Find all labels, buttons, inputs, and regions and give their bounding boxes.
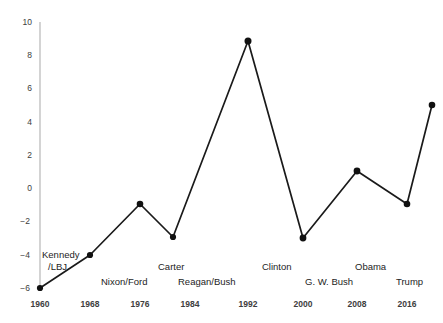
data-point-1992[interactable] xyxy=(245,38,252,45)
annotation-clinton: Clinton xyxy=(262,261,292,272)
annotation-kennedy-lbj-line1: Kennedy xyxy=(42,249,80,260)
xtick-label-1960: 1960 xyxy=(18,299,62,309)
data-point-2008[interactable] xyxy=(354,168,361,175)
xtick-label-2000: 2000 xyxy=(281,299,325,309)
annotation-kennedy-lbj-line2: /LBJ xyxy=(48,261,67,272)
data-point-2000[interactable] xyxy=(300,235,307,242)
xtick-label-1968: 1968 xyxy=(68,299,112,309)
data-series-line xyxy=(40,41,432,288)
ytick-label-2: 2 xyxy=(10,151,32,160)
annotation-obama: Obama xyxy=(355,261,386,272)
xtick-label-2016: 2016 xyxy=(385,299,429,309)
xtick-label-1976: 1976 xyxy=(118,299,162,309)
ytick-label-4: 4 xyxy=(10,118,32,127)
xtick-label-1992: 1992 xyxy=(226,299,270,309)
ytick-label-neg6: −6 xyxy=(8,284,30,293)
line-chart: 10 8 6 4 2 0 −2 −4 −6 1960 1968 1976 198… xyxy=(0,0,443,323)
data-point-1960[interactable] xyxy=(37,285,43,291)
data-point-2016[interactable] xyxy=(404,201,411,208)
annotation-trump: Trump xyxy=(396,276,423,287)
annotation-gw-bush: G. W. Bush xyxy=(305,276,353,287)
data-point-markers xyxy=(37,38,435,292)
annotation-carter: Carter xyxy=(158,261,184,272)
data-point-1980[interactable] xyxy=(170,234,176,240)
data-point-1968[interactable] xyxy=(87,252,93,258)
ytick-label-neg4: −4 xyxy=(8,251,30,260)
ytick-label-0: 0 xyxy=(10,184,32,193)
ytick-label-8: 8 xyxy=(10,51,32,60)
series-polyline xyxy=(40,41,432,288)
xtick-label-2008: 2008 xyxy=(335,299,379,309)
annotation-nixon-ford: Nixon/Ford xyxy=(101,276,147,287)
ytick-label-6: 6 xyxy=(10,84,32,93)
chart-plot-area xyxy=(0,0,443,323)
ytick-label-10: 10 xyxy=(10,18,32,27)
xtick-label-1984: 1984 xyxy=(168,299,212,309)
annotation-reagan-bush: Reagan/Bush xyxy=(178,276,236,287)
ytick-label-neg2: −2 xyxy=(8,217,30,226)
data-point-1976[interactable] xyxy=(137,201,144,208)
data-point-2018[interactable] xyxy=(429,102,436,109)
